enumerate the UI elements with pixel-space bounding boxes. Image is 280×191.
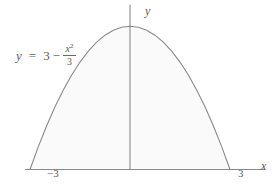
equation-annotation: y = 3 − x2 3 xyxy=(16,44,77,67)
equation-lhs: y xyxy=(16,49,22,62)
numerator-exponent: 2 xyxy=(70,42,74,50)
x-axis-label: x xyxy=(261,160,266,172)
equation-constant: 3 xyxy=(43,49,50,62)
equation-fraction: x2 3 xyxy=(63,44,76,67)
equation-operator: − xyxy=(53,49,60,62)
y-axis-label: y xyxy=(145,5,150,17)
fraction-numerator: x2 xyxy=(63,44,75,55)
fraction-denominator: 3 xyxy=(65,56,74,67)
x-tick-label-negative-three: −3 xyxy=(47,168,59,179)
plot-canvas xyxy=(0,0,280,191)
equation-relation: = xyxy=(29,49,36,62)
x-tick-label-three: 3 xyxy=(238,168,244,179)
parabola-figure: y = 3 − x2 3 y x −3 3 xyxy=(0,0,280,191)
